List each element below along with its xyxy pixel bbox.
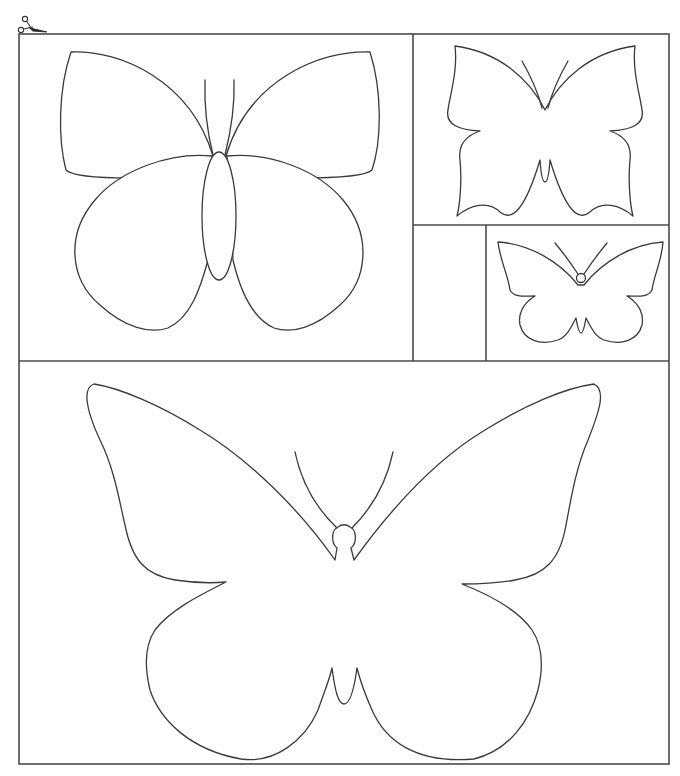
lower-right-wing	[227, 155, 363, 330]
butterfly-extra-large	[87, 384, 601, 760]
template-sheet	[0, 0, 680, 776]
butterfly-outline	[448, 46, 643, 216]
butterfly-head	[577, 274, 586, 283]
scissors-icon	[18, 16, 47, 32]
butterfly-outline	[498, 242, 663, 342]
lower-left-wing	[75, 155, 212, 330]
butterfly-small	[498, 242, 663, 342]
butterfly-outline	[87, 384, 601, 760]
right-antenna	[352, 452, 393, 528]
butterfly-body	[202, 152, 236, 280]
butterfly-large-body	[61, 52, 380, 330]
butterfly-swallowtail	[448, 46, 643, 216]
